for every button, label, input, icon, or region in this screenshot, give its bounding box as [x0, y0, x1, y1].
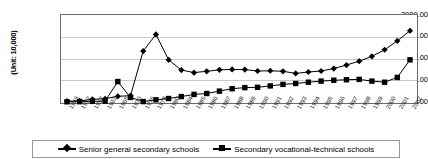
- x-axis-tick-labels: 1949195219571962196519701975197819801984…: [60, 106, 418, 136]
- data-point-marker: [255, 85, 260, 90]
- data-point-marker: [407, 57, 412, 62]
- data-point-marker: [356, 58, 362, 64]
- data-point-marker: [318, 68, 324, 74]
- data-point-marker: [331, 65, 337, 71]
- diamond-marker-icon: [62, 144, 70, 152]
- data-point-marker: [331, 78, 336, 83]
- legend-line-diamond: [58, 148, 76, 150]
- data-point-marker: [229, 86, 234, 91]
- data-point-marker: [268, 83, 273, 88]
- data-point-marker: [115, 79, 120, 84]
- data-point-marker: [191, 70, 197, 76]
- data-point-marker: [217, 88, 222, 93]
- data-point-marker: [280, 68, 286, 74]
- legend-label: Secondary vocational-technical schools: [234, 145, 374, 154]
- y-axis-title-text: (Unit: 10,000): [9, 13, 18, 93]
- data-point-marker: [280, 82, 285, 87]
- data-point-marker: [306, 80, 311, 85]
- data-point-marker: [204, 91, 209, 96]
- legend-label: Senior general secondary schools: [79, 145, 200, 154]
- data-point-marker: [293, 81, 298, 86]
- plot-area: [60, 14, 418, 104]
- data-point-marker: [254, 68, 260, 74]
- data-point-marker: [395, 75, 400, 80]
- square-marker-icon: [219, 145, 225, 151]
- data-point-marker: [369, 78, 374, 83]
- data-point-marker: [344, 77, 349, 82]
- data-point-marker: [305, 69, 311, 75]
- data-point-marker: [242, 66, 248, 72]
- data-point-marker: [343, 62, 349, 68]
- legend-line-square: [213, 148, 231, 150]
- y-axis-title: (Unit: 10,000): [1, 18, 13, 98]
- line-chart: (Unit: 10,000) 2000.00 1500.00 1000.00 5…: [0, 0, 428, 159]
- data-point-marker: [242, 85, 247, 90]
- data-point-marker: [382, 80, 387, 85]
- data-point-marker: [204, 68, 210, 74]
- series-layer: [61, 15, 416, 102]
- data-point-marker: [369, 53, 375, 59]
- data-point-marker: [229, 66, 235, 72]
- legend-item-senior-general: Senior general secondary schools: [58, 145, 200, 154]
- data-point-marker: [216, 67, 222, 73]
- data-point-marker: [267, 68, 273, 74]
- data-point-marker: [191, 92, 196, 97]
- data-point-marker: [356, 77, 361, 82]
- data-point-marker: [293, 70, 299, 76]
- series-line-diamond: [67, 31, 410, 101]
- data-point-marker: [381, 47, 387, 53]
- legend: Senior general secondary schools Seconda…: [32, 140, 400, 158]
- data-point-marker: [318, 78, 323, 83]
- legend-item-vocational-technical: Secondary vocational-technical schools: [213, 145, 374, 154]
